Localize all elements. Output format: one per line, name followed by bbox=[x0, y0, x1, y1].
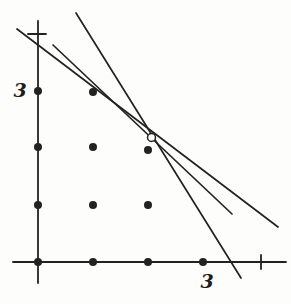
lattice-dot bbox=[144, 201, 152, 209]
lattice-dot bbox=[34, 258, 42, 266]
lattice-dot bbox=[89, 143, 97, 151]
lattice-dot bbox=[199, 258, 207, 266]
figure-canvas bbox=[0, 0, 291, 304]
open-circle-marker bbox=[148, 134, 156, 142]
lattice-dot bbox=[34, 143, 42, 151]
line-shallow bbox=[17, 29, 278, 227]
line-middle bbox=[53, 45, 232, 214]
lattice-dot bbox=[144, 258, 152, 266]
lattice-dot bbox=[34, 87, 42, 95]
lattice-dot bbox=[89, 88, 97, 96]
figure: 3 3 bbox=[0, 0, 291, 304]
lattice-dot bbox=[89, 201, 97, 209]
lattice-dot bbox=[89, 258, 97, 266]
y-axis-label: 3 bbox=[13, 81, 26, 100]
lattice-dot bbox=[34, 201, 42, 209]
x-axis-label: 3 bbox=[200, 272, 213, 291]
lattice-dot bbox=[144, 146, 152, 154]
